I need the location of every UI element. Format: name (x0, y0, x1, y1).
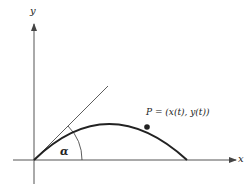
trajectory-curve (34, 124, 187, 160)
point-p (144, 124, 150, 130)
angle-label: α (60, 145, 68, 158)
diagram: y x α P = (x(t), y(t)) (0, 0, 252, 190)
diagram-canvas (0, 0, 252, 190)
point-label: P = (x(t), y(t)) (146, 107, 210, 117)
x-axis-label: x (238, 153, 244, 164)
y-axis-label: y (30, 5, 36, 16)
